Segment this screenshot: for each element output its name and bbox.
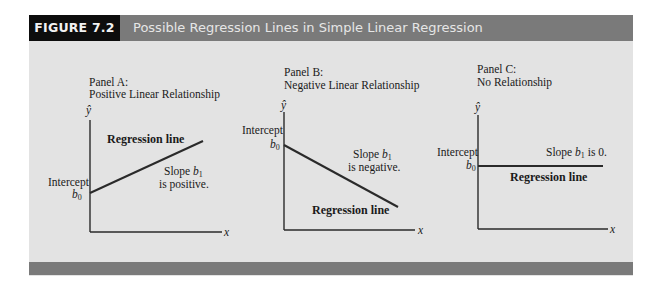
panel-b-slope-description: is negative. bbox=[348, 160, 400, 174]
panel-c-regression-line-label: Regression line bbox=[510, 170, 587, 184]
panel-a-x-axis-label: x bbox=[224, 225, 229, 239]
panel-c-title-line1: Panel C: bbox=[477, 62, 516, 76]
panel-b-title-line1: Panel B: bbox=[284, 65, 323, 79]
panel-b-intercept-label: Intercept bbox=[242, 123, 283, 137]
panel-a-title-line2: Positive Linear Relationship bbox=[89, 87, 220, 101]
panel-a-regression-line-label: Regression line bbox=[107, 132, 184, 146]
panel-b-title-line2: Negative Linear Relationship bbox=[284, 78, 419, 92]
panel-b-x-axis-label: x bbox=[418, 223, 423, 237]
panel-c-slope-text: Slope b1 is 0. bbox=[546, 145, 607, 163]
panel-b-y-axis-label: ŷ bbox=[281, 98, 286, 112]
panel-c-title-line2: No Relationship bbox=[477, 75, 552, 89]
panel-a-y-axis-label: ŷ bbox=[86, 103, 91, 117]
panel-b-regression-line-label: Regression line bbox=[312, 203, 389, 217]
panel-c-x-axis-label: x bbox=[610, 222, 615, 236]
panel-c-y-axis-label: ŷ bbox=[475, 100, 480, 114]
panel-a-intercept-symbol: b0 bbox=[72, 187, 82, 205]
panel-a-intercept-label: Intercept bbox=[48, 175, 89, 189]
panel-a-slope-description: is positive. bbox=[159, 177, 209, 191]
panel-b-intercept-symbol: b0 bbox=[270, 137, 280, 155]
panel-c-intercept-symbol: b0 bbox=[466, 158, 476, 176]
panel-c-intercept-label: Intercept bbox=[437, 145, 478, 159]
figure-footer-bar bbox=[29, 262, 633, 275]
